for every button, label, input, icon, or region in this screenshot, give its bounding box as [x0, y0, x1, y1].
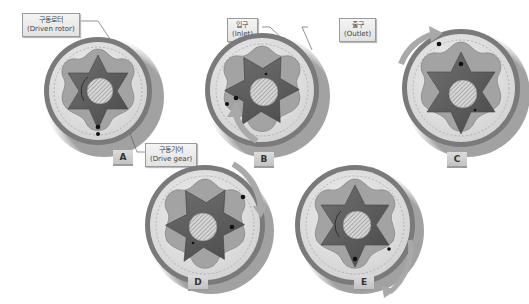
rotation-arrow-b-icon [225, 95, 270, 145]
stage-label-e: E [354, 275, 374, 291]
callout-driven-rotor-ko: 구동로터 [27, 16, 75, 25]
stage-label-c: C [447, 152, 467, 168]
pump-stage-a [36, 29, 161, 154]
rotation-arrow-d-icon [225, 160, 270, 220]
callout-outlet-ko: 출구 [344, 21, 371, 30]
callout-outlet-en: (Outlet) [344, 30, 371, 39]
rotation-arrow-e-icon [380, 240, 420, 300]
stage-label-a: A [113, 150, 133, 166]
stage-label-d: D [188, 275, 208, 291]
rotation-arrow-c-icon [397, 24, 447, 69]
callout-outlet: 출구 (Outlet) [339, 18, 376, 42]
